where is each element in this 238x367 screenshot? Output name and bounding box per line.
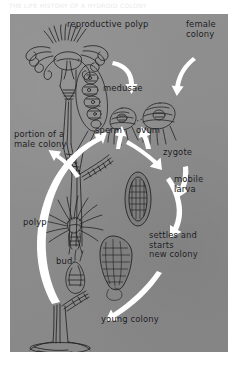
label-polyp: polyp bbox=[23, 218, 47, 228]
gamete-union-line bbox=[137, 119, 143, 121]
arrow-to-zygote bbox=[126, 140, 162, 170]
figure-root: THE LIFE HISTORY OF A HYDROID COLONY bbox=[0, 0, 238, 367]
label-bud: bud bbox=[56, 257, 72, 267]
settled-larva-drawing bbox=[100, 236, 132, 290]
label-sperm: sperm bbox=[95, 126, 122, 136]
polyp-drawing bbox=[44, 196, 103, 254]
arrow-female-to-medusa-right bbox=[172, 57, 196, 96]
label-ovum: ovum bbox=[136, 126, 160, 136]
label-settles-and-starts-new-colony: settles and starts new colony bbox=[149, 231, 198, 260]
figure-caption-top: THE LIFE HISTORY OF A HYDROID COLONY bbox=[9, 0, 229, 11]
label-medusae: medusae bbox=[103, 84, 143, 94]
label-young-colony: young colony bbox=[101, 315, 159, 325]
young-colony-drawing bbox=[30, 291, 90, 352]
label-female-colony: female colony bbox=[186, 20, 216, 39]
label-mobile-larva: mobile larva bbox=[174, 175, 203, 194]
label-reproductive-polyp: reproductive polyp bbox=[67, 20, 148, 30]
mobile-larva-drawing bbox=[125, 172, 151, 226]
label-portion-of-male-colony: portion of a male colony bbox=[14, 130, 67, 149]
diagram-panel: reproductive polyp female colony medusae… bbox=[10, 14, 228, 352]
label-zygote: zygote bbox=[163, 148, 192, 158]
